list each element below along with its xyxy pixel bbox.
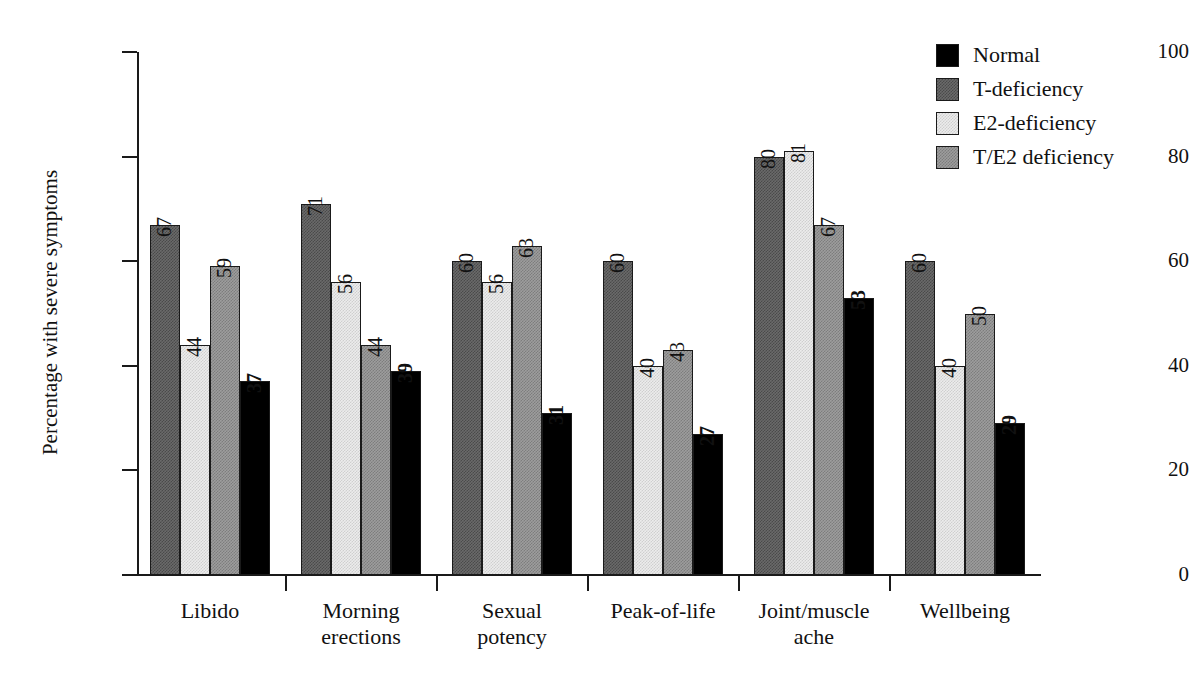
bar-value-label: 40 bbox=[939, 358, 959, 378]
legend-item-label: E2-deficiency bbox=[973, 112, 1096, 134]
bar-value-label: 60 bbox=[909, 253, 929, 273]
y-axis-tick-label: 20 bbox=[1079, 459, 1189, 480]
legend-swatch-icon bbox=[936, 112, 959, 135]
bar bbox=[663, 350, 693, 575]
legend-item[interactable]: E2-deficiency bbox=[936, 106, 1114, 140]
x-axis-tick bbox=[436, 576, 438, 591]
bar bbox=[391, 371, 421, 575]
y-axis-tick-label: 0 bbox=[1079, 564, 1189, 585]
bar-value-label: 56 bbox=[335, 274, 355, 294]
y-axis-tick-label: 60 bbox=[1079, 250, 1189, 271]
bar-value-label: 39 bbox=[395, 363, 415, 383]
bar bbox=[603, 261, 633, 575]
legend-swatch-icon bbox=[936, 44, 959, 67]
bar-value-label: 60 bbox=[456, 253, 476, 273]
bar bbox=[482, 282, 512, 575]
bar-value-label: 44 bbox=[184, 337, 204, 357]
bar bbox=[331, 282, 361, 575]
legend: NormalT-deficiencyE2-deficiencyT/E2 defi… bbox=[936, 38, 1114, 174]
bar-value-label: 80 bbox=[758, 149, 778, 169]
y-axis-tick bbox=[122, 260, 137, 262]
legend-item-label: Normal bbox=[973, 44, 1040, 66]
y-axis-tick-label: 40 bbox=[1079, 355, 1189, 376]
category-label-line: ache bbox=[719, 624, 909, 650]
bar-value-label: 31 bbox=[546, 405, 566, 425]
y-axis-line bbox=[137, 52, 139, 576]
bar bbox=[542, 413, 572, 575]
legend-item-label: T-deficiency bbox=[973, 78, 1083, 100]
bar-value-label: 60 bbox=[607, 253, 627, 273]
bar bbox=[633, 366, 663, 575]
x-axis-category-label: Wellbeing bbox=[870, 598, 1060, 624]
bar bbox=[150, 225, 180, 575]
y-axis-tick bbox=[122, 156, 137, 158]
y-axis-tick bbox=[122, 51, 137, 53]
legend-swatch-icon bbox=[936, 78, 959, 101]
bar bbox=[784, 151, 814, 575]
legend-item[interactable]: Normal bbox=[936, 38, 1114, 72]
x-axis-tick bbox=[587, 576, 589, 591]
bar-chart: Percentage with severe symptoms 10080604… bbox=[0, 0, 1189, 680]
bar bbox=[844, 298, 874, 575]
y-axis-tick bbox=[122, 365, 137, 367]
bar bbox=[935, 366, 965, 575]
bar bbox=[361, 345, 391, 575]
bar-value-label: 40 bbox=[637, 358, 657, 378]
bar bbox=[995, 423, 1025, 575]
bar bbox=[905, 261, 935, 575]
bar-value-label: 67 bbox=[154, 217, 174, 237]
bar-value-label: 44 bbox=[365, 337, 385, 357]
bar-value-label: 50 bbox=[969, 306, 989, 326]
bar bbox=[210, 266, 240, 575]
bar bbox=[754, 157, 784, 575]
category-label-line: potency bbox=[417, 624, 607, 650]
bar bbox=[693, 434, 723, 575]
bar bbox=[512, 246, 542, 575]
bar bbox=[452, 261, 482, 575]
bar-value-label: 63 bbox=[516, 238, 536, 258]
bar-value-label: 29 bbox=[999, 415, 1019, 435]
bar-value-label: 43 bbox=[667, 342, 687, 362]
bar bbox=[240, 381, 270, 575]
legend-item-label: T/E2 deficiency bbox=[973, 146, 1114, 168]
bar-value-label: 56 bbox=[486, 274, 506, 294]
bar-value-label: 53 bbox=[848, 290, 868, 310]
legend-item[interactable]: T-deficiency bbox=[936, 72, 1114, 106]
bar bbox=[814, 225, 844, 575]
x-axis-tick bbox=[889, 576, 891, 591]
x-axis-tick bbox=[285, 576, 287, 591]
bar-value-label: 37 bbox=[244, 373, 264, 393]
bar-value-label: 67 bbox=[818, 217, 838, 237]
y-axis-tick bbox=[122, 574, 137, 576]
y-axis-title: Percentage with severe symptoms bbox=[38, 78, 63, 548]
bar-value-label: 59 bbox=[214, 258, 234, 278]
y-axis-tick bbox=[122, 469, 137, 471]
bar-value-label: 27 bbox=[697, 426, 717, 446]
bar bbox=[180, 345, 210, 575]
category-label-line: Wellbeing bbox=[870, 598, 1060, 624]
bar bbox=[301, 204, 331, 575]
bar-value-label: 81 bbox=[788, 143, 808, 163]
bar-value-label: 71 bbox=[305, 196, 325, 216]
legend-swatch-icon bbox=[936, 146, 959, 169]
x-axis-tick bbox=[738, 576, 740, 591]
legend-item[interactable]: T/E2 deficiency bbox=[936, 140, 1114, 174]
bar bbox=[965, 314, 995, 576]
